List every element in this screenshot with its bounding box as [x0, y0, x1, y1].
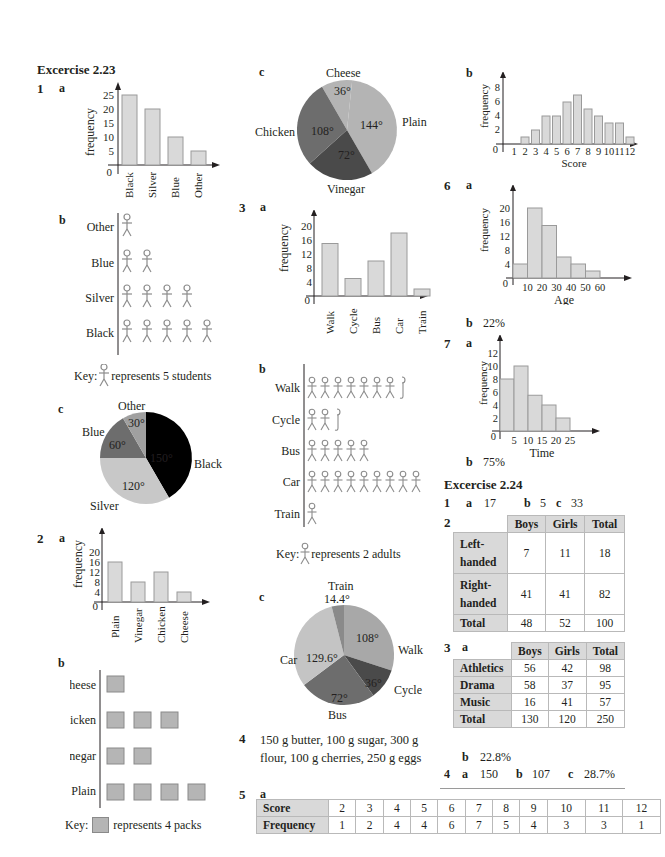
svg-text:20: 20 — [551, 435, 562, 446]
table-header-row: Boys Girls Total — [454, 643, 625, 660]
answer-value: 107 — [532, 767, 568, 782]
question-number: 4 — [239, 731, 246, 747]
answer-text: 150 g butter, 100 g sugar, 300 g flour, … — [260, 731, 421, 767]
svg-text:Train: Train — [416, 310, 428, 334]
table-cell: 2 — [329, 800, 356, 817]
answer-value: 28.7% — [584, 767, 615, 782]
svg-text:0: 0 — [305, 294, 311, 306]
svg-text:Other: Other — [118, 400, 145, 413]
part-label: a — [466, 336, 472, 351]
part-label: a — [59, 81, 65, 96]
row-header: Total — [454, 711, 512, 728]
answer-row-4: 4 a 150 b 107 c 28.7% — [444, 767, 615, 782]
pictogram-key-3b: Key: represents 2 adults — [276, 542, 401, 566]
svg-text:8: 8 — [495, 82, 500, 93]
svg-text:Blue: Blue — [82, 425, 105, 439]
svg-text:12: 12 — [625, 146, 636, 157]
y-axis-label: frequency — [278, 224, 291, 272]
svg-text:20: 20 — [537, 282, 548, 293]
question-number: 2 — [444, 515, 451, 531]
pictogram-3b: Walk Cycle Bus Car Train — [260, 362, 460, 532]
column-header: Boys — [508, 516, 546, 533]
svg-text:10: 10 — [522, 282, 533, 293]
question-number: 3 — [239, 200, 246, 216]
svg-text:Vinegar: Vinegar — [132, 608, 144, 643]
svg-text:8: 8 — [307, 262, 313, 274]
table-cell: 41 — [545, 574, 584, 615]
column-header: Girls — [548, 643, 586, 660]
svg-text:0: 0 — [93, 600, 99, 612]
svg-text:36°: 36° — [365, 676, 382, 690]
table-row: Music 16 41 57 — [454, 694, 625, 711]
table-cell: 95 — [586, 677, 624, 694]
table-cell: 8 — [493, 800, 520, 817]
table-cell: 130 — [512, 711, 549, 728]
answer-value: 17 — [484, 496, 524, 511]
svg-text:6: 6 — [564, 146, 569, 157]
table-row: Athletics 56 42 98 — [454, 660, 625, 677]
svg-text:72°: 72° — [338, 148, 355, 162]
answer-value: 33 — [571, 496, 583, 511]
svg-text:144°: 144° — [360, 118, 383, 132]
question-number: 2 — [37, 531, 44, 547]
svg-text:20: 20 — [103, 103, 115, 115]
part-label: b — [524, 496, 540, 511]
answer-value: 5 — [540, 496, 556, 511]
table-cell: 4 — [520, 817, 547, 834]
svg-text:4: 4 — [307, 276, 313, 288]
svg-text:Black: Black — [86, 326, 114, 340]
svg-text:Cheese: Cheese — [70, 678, 96, 692]
svg-text:4: 4 — [493, 400, 499, 411]
table-cell: 4 — [383, 800, 410, 817]
svg-text:Bus: Bus — [370, 317, 382, 334]
pictogram-key-1b: Key: represents 5 students — [74, 364, 211, 388]
svg-text:12: 12 — [488, 348, 499, 359]
pie-chart-1c: 150° 120° 60° 30° Other Blue Black Silve… — [70, 400, 240, 510]
question-number: 3 — [444, 640, 451, 656]
question-number: 1 — [444, 496, 466, 511]
svg-text:4: 4 — [505, 259, 511, 270]
bar-chart-5b: frequency 2468 0 1234 5678 9101112 Score — [478, 72, 643, 172]
table-row: Drama 58 37 95 — [454, 677, 625, 694]
svg-text:10: 10 — [103, 131, 115, 143]
column-header: Total — [586, 643, 624, 660]
x-axis-label: Score — [561, 157, 586, 169]
part-label: a — [59, 531, 65, 546]
x-axis-label: Age — [554, 293, 574, 305]
table-cell: 10 — [547, 800, 585, 817]
table-cell: 11 — [545, 533, 584, 574]
table-cell: 4 — [411, 817, 438, 834]
table-cell: 120 — [548, 711, 586, 728]
svg-text:Other: Other — [87, 220, 114, 234]
svg-text:20: 20 — [301, 220, 313, 232]
table-cell: 56 — [512, 660, 549, 677]
svg-text:120°: 120° — [122, 479, 145, 493]
svg-text:16: 16 — [301, 234, 313, 246]
key-text: represents 2 adults — [311, 547, 400, 562]
svg-text:Vinegar: Vinegar — [327, 182, 365, 196]
svg-text:Cheese: Cheese — [178, 611, 190, 643]
svg-text:5: 5 — [511, 435, 516, 446]
part-label: b — [466, 316, 473, 331]
part-label: a — [260, 200, 266, 215]
table-cell: 3 — [547, 817, 585, 834]
table-cell: 37 — [548, 677, 586, 694]
part-label: b — [58, 656, 65, 671]
table-cell: 52 — [545, 615, 584, 632]
row-header: Drama — [454, 677, 512, 694]
svg-text:Cheese: Cheese — [326, 66, 361, 80]
y-axis-label: frequency — [83, 108, 97, 156]
handedness-table: Boys Girls Total Left-handed 7 11 18 Rig… — [453, 515, 625, 632]
key-label: Key: — [276, 547, 299, 562]
part-label: c — [58, 402, 63, 417]
y-axis-label: frequency — [478, 208, 490, 252]
answer-row-1: 1 a 17 b 5 c 33 — [444, 496, 583, 511]
svg-text:8: 8 — [505, 245, 510, 256]
part-label: c — [556, 496, 571, 511]
part-label: b — [466, 455, 473, 470]
question-number: 1 — [37, 81, 44, 97]
table-cell: 5 — [411, 800, 438, 817]
svg-text:150°: 150° — [150, 451, 173, 465]
svg-text:Black: Black — [194, 457, 222, 471]
svg-text:10: 10 — [488, 361, 499, 372]
